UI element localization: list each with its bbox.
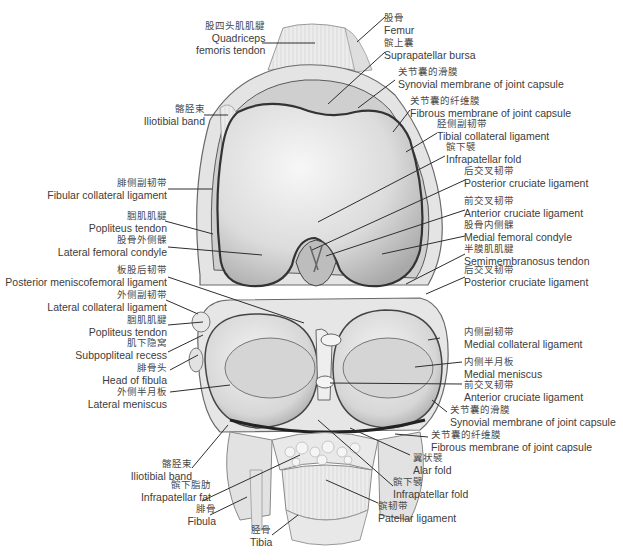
label-quadriceps-tendon: 股四头肌肌腱 Quadriceps femoris tendon xyxy=(196,20,265,56)
label-lateral-meniscus: 外侧半月板 Lateral meniscus xyxy=(88,386,167,410)
label-zh: 半膜肌肌腱 xyxy=(464,243,589,255)
label-zh: 髌下襞 xyxy=(446,141,521,153)
label-zh: 股四头肌肌腱 xyxy=(196,20,265,32)
label-en: Alar fold xyxy=(413,464,452,476)
label-zh: 外侧半月板 xyxy=(88,386,167,398)
label-en: Fibular collateral ligament xyxy=(47,189,167,201)
label-zh: 腘肌肌腱 xyxy=(89,314,167,326)
label-zh: 板股后韧带 xyxy=(5,264,167,276)
label-zh: 腘肌肌腱 xyxy=(89,210,167,222)
label-en: Synovial membrane of joint capsule xyxy=(398,78,564,90)
label-infrapatellar-fold-top: 髌下襞 Infrapatellar fold xyxy=(446,141,521,165)
label-en: Fibrous membrane of joint capsule xyxy=(431,441,592,453)
label-zh: 翼状襞 xyxy=(413,452,452,464)
label-en: Synovial membrane of joint capsule xyxy=(450,416,616,428)
label-femur: 股骨 Femur xyxy=(384,12,414,36)
label-en: Patellar ligament xyxy=(378,512,456,524)
label-acl-bottom: 前交叉韧带 Anterior cruciate ligament xyxy=(464,379,583,403)
label-en: Femur xyxy=(384,24,414,36)
label-fibula: 腓骨 Fibula xyxy=(187,503,216,527)
label-zh: 腓骨头 xyxy=(102,362,167,374)
label-zh: 髂胫束 xyxy=(131,458,192,470)
label-en: Posterior cruciate ligament xyxy=(464,276,588,288)
label-alar-fold: 翼状襞 Alar fold xyxy=(413,452,452,476)
label-synovial-membrane-top: 关节囊的滑膜 Synovial membrane of joint capsul… xyxy=(398,66,564,90)
label-posterior-meniscofemoral-ligament: 板股后韧带 Posterior meniscofemoral ligament xyxy=(5,264,167,288)
label-subpopliteal-recess: 肌下隐窝 Subpopliteal recess xyxy=(75,337,167,361)
label-zh: 前交叉韧带 xyxy=(464,379,583,391)
label-zh: 股骨外侧髁 xyxy=(58,234,167,246)
label-zh: 腓骨 xyxy=(187,503,216,515)
label-en: Posterior cruciate ligament xyxy=(464,177,588,189)
label-suprapatellar-bursa: 髌上囊 Suprapatellar bursa xyxy=(384,37,476,61)
femoral-condyles-shape xyxy=(217,104,422,286)
label-en: Fibula xyxy=(187,515,216,527)
label-en: Popliteus tendon xyxy=(89,222,167,234)
label-pcl-mid: 后交叉韧带 Posterior cruciate ligament xyxy=(464,264,588,288)
label-zh: 关节囊的纤维膜 xyxy=(431,429,592,441)
label-infrapatellar-fold-bottom: 髌下襞 Infrapatellar fold xyxy=(393,476,468,500)
label-tibia: 胫骨 Tibia xyxy=(250,524,272,548)
label-tibial-collateral-ligament: 胫侧副韧带 Tibial collateral ligament xyxy=(437,118,549,142)
label-zh: 髌上囊 xyxy=(384,37,476,49)
label-iliotibial-band-top: 髂胫束 Iliotibial band xyxy=(144,103,205,127)
label-medial-meniscus: 内侧半月板 Medial meniscus xyxy=(464,356,542,380)
label-fibrous-membrane-top: 关节囊的纤维膜 Fibrous membrane of joint capsul… xyxy=(410,95,571,119)
label-zh: 髂胫束 xyxy=(144,103,205,115)
tibial-plateau-shape xyxy=(198,298,448,433)
label-zh: 关节囊的滑膜 xyxy=(398,66,564,78)
label-zh: 胫侧副韧带 xyxy=(437,118,549,130)
label-infrapatellar-fat: 髌下脂肪 Infrapatellar fat xyxy=(141,479,211,503)
label-en: Infrapatellar fat xyxy=(141,491,211,503)
label-en: Medial femoral condyle xyxy=(464,231,572,243)
label-en: Anterior cruciate ligament xyxy=(464,391,583,403)
label-en: Lateral meniscus xyxy=(88,398,167,410)
label-synovial-membrane-bottom: 关节囊的滑膜 Synovial membrane of joint capsul… xyxy=(450,404,616,428)
label-medial-femoral-condyle: 股骨内侧髁 Medial femoral condyle xyxy=(464,219,572,243)
label-fibular-collateral-ligament: 腓侧副韧带 Fibular collateral ligament xyxy=(47,177,167,201)
label-fibrous-membrane-bottom: 关节囊的纤维膜 Fibrous membrane of joint capsul… xyxy=(431,429,592,453)
label-en: femoris tendon xyxy=(196,44,265,56)
label-zh: 前交叉韧带 xyxy=(464,195,583,207)
label-en: Head of fibula xyxy=(102,374,167,386)
label-patellar-ligament: 髌韧带 Patellar ligament xyxy=(378,500,456,524)
label-en: Infrapatellar fold xyxy=(393,488,468,500)
label-en: Lateral collateral ligament xyxy=(47,301,167,313)
label-zh: 关节囊的滑膜 xyxy=(450,404,616,416)
label-medial-collateral-ligament: 内侧副韧带 Medial collateral ligament xyxy=(464,326,582,350)
label-head-of-fibula: 腓骨头 Head of fibula xyxy=(102,362,167,386)
label-en: Subpopliteal recess xyxy=(75,349,167,361)
label-pcl-top: 后交叉韧带 Posterior cruciate ligament xyxy=(464,165,588,189)
label-en: Medial collateral ligament xyxy=(464,338,582,350)
label-en: Lateral femoral condyle xyxy=(58,246,167,258)
label-popliteus-tendon-top: 腘肌肌腱 Popliteus tendon xyxy=(89,210,167,234)
label-en: Posterior meniscofemoral ligament xyxy=(5,276,167,288)
label-en: Quadriceps xyxy=(196,32,265,44)
label-zh: 后交叉韧带 xyxy=(464,165,588,177)
label-en: Infrapatellar fold xyxy=(446,153,521,165)
label-zh: 髌韧带 xyxy=(378,500,456,512)
label-zh: 内侧副韧带 xyxy=(464,326,582,338)
label-lateral-femoral-condyle: 股骨外侧髁 Lateral femoral condyle xyxy=(58,234,167,258)
label-acl-top: 前交叉韧带 Anterior cruciate ligament xyxy=(464,195,583,219)
label-zh: 髌下脂肪 xyxy=(141,479,211,491)
label-zh: 胫骨 xyxy=(250,524,272,536)
label-en: Iliotibial band xyxy=(144,115,205,127)
label-zh: 外侧副韧带 xyxy=(47,289,167,301)
label-zh: 髌下襞 xyxy=(393,476,468,488)
label-zh: 股骨 xyxy=(384,12,414,24)
label-en: Tibia xyxy=(250,536,272,548)
label-popliteus-tendon-bottom: 腘肌肌腱 Popliteus tendon xyxy=(89,314,167,338)
label-zh: 股骨内侧髁 xyxy=(464,219,572,231)
label-lateral-collateral-ligament: 外侧副韧带 Lateral collateral ligament xyxy=(47,289,167,313)
label-en: Anterior cruciate ligament xyxy=(464,207,583,219)
label-zh: 肌下隐窝 xyxy=(75,337,167,349)
label-zh: 腓侧副韧带 xyxy=(47,177,167,189)
label-en: Suprapatellar bursa xyxy=(384,49,476,61)
label-zh: 后交叉韧带 xyxy=(464,264,588,276)
label-zh: 内侧半月板 xyxy=(464,356,542,368)
label-zh: 关节囊的纤维膜 xyxy=(410,95,571,107)
